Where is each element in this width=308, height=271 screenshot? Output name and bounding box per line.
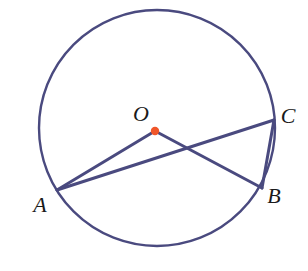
geometry-diagram: O A B C [0, 0, 308, 271]
segment-radius-OA [57, 131, 155, 190]
label-point-B: B [267, 183, 280, 208]
label-point-O: O [133, 101, 149, 126]
geometry-canvas: O A B C [0, 0, 308, 271]
segment-radius-OB [155, 131, 262, 188]
segment-chord-AC [57, 120, 274, 190]
center-point-dot [151, 127, 159, 135]
label-point-C: C [281, 103, 296, 128]
label-point-A: A [31, 192, 47, 217]
